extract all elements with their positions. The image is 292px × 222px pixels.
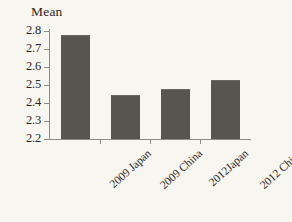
y-tick-label: 2.6 <box>0 59 41 74</box>
bar <box>211 80 240 139</box>
x-tick-mark <box>200 139 201 144</box>
bar <box>161 89 190 139</box>
x-axis-label: 2012Japan <box>206 147 250 188</box>
y-tick-mark <box>44 139 50 140</box>
y-tick-label: 2.7 <box>0 41 41 56</box>
x-axis-label: 2009 China <box>157 147 204 191</box>
y-tick-label: 2.4 <box>0 95 41 110</box>
bar <box>111 95 140 139</box>
x-tick-mark <box>150 139 151 144</box>
plot-area <box>50 31 250 139</box>
y-tick-label: 2.5 <box>0 77 41 92</box>
bar-chart: Mean 2.82.72.62.52.42.32.2 2009 Japan200… <box>0 0 292 222</box>
x-tick-mark <box>100 139 101 144</box>
y-tick-label: 2.8 <box>0 23 41 38</box>
y-tick-label: 2.3 <box>0 113 41 128</box>
y-tick-label: 2.2 <box>0 131 41 146</box>
y-axis-title: Mean <box>31 4 63 20</box>
bar <box>61 35 90 139</box>
x-axis-label: 2012 China <box>257 147 292 191</box>
x-axis-label: 2009 Japan <box>107 147 153 190</box>
